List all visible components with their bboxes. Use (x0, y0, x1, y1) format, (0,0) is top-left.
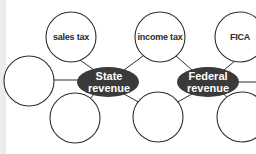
hub-federal-line1: Federal (187, 70, 229, 82)
hub-state-line2: revenue (88, 82, 130, 94)
node-shared-bottom (133, 92, 183, 142)
connector-income-tax-federal (176, 56, 192, 70)
connector-income-tax-state (124, 56, 143, 70)
hub-label-state: State revenue (88, 70, 130, 94)
node-label-sales-tax: sales tax (53, 32, 89, 42)
node-state-bottom (50, 93, 100, 143)
node-state-left (4, 56, 54, 106)
hub-state-line1: State (88, 70, 130, 82)
hub-label-federal: Federal revenue (187, 70, 229, 94)
node-label-income-tax: income tax (137, 32, 182, 42)
node-federal-bottom (217, 92, 256, 142)
connector-sales-tax (80, 60, 94, 70)
node-label-fica: FICA (230, 32, 250, 42)
hub-federal-line2: revenue (187, 82, 229, 94)
